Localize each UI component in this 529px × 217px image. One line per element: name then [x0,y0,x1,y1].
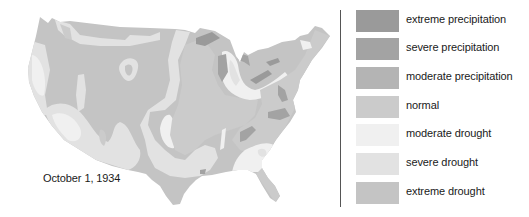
legend-item-normal: normal [356,96,529,118]
legend-label: extreme precipitation [406,13,506,25]
legend-item-extreme-drought: extreme drought [356,182,529,204]
legend-swatch-severe-precipitation [356,38,399,60]
legend-item-moderate-precipitation: moderate precipitation [356,67,529,89]
legend-item-moderate-drought: moderate drought [356,124,529,146]
legend-item-extreme-precipitation: extreme precipitation [356,10,529,32]
legend-divider [340,10,341,207]
map-date-label: October 1, 1934 [43,172,120,184]
legend-label: normal [406,99,439,111]
legend-swatch-extreme-drought [356,182,399,204]
legend-swatch-severe-drought [356,153,399,175]
legend-item-severe-drought: severe drought [356,153,529,175]
region-normal-florida [256,168,280,202]
legend-swatch-normal [356,96,399,118]
legend-label: severe precipitation [406,41,499,53]
legend-swatch-extreme-precipitation [356,10,399,32]
us-drought-map [0,0,340,217]
legend-item-severe-precipitation: severe precipitation [356,38,529,60]
legend-swatch-moderate-precipitation [356,67,399,89]
legend-label: moderate drought [406,127,491,139]
legend-swatch-moderate-drought [356,124,399,146]
legend-label: extreme drought [406,185,485,197]
legend-label: moderate precipitation [406,70,513,82]
legend-label: severe drought [406,156,478,168]
